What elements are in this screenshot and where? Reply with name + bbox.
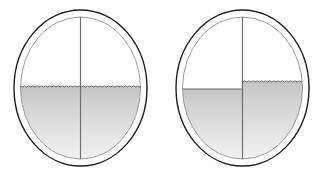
diagram-canvas [0,0,322,175]
vessels-diagram [0,0,322,175]
vessel-left-surface-line [14,86,148,87]
vessel-right-right-surface-line [243,81,310,82]
vessel-right-right-liquid-fill [242,82,311,167]
vessel-right-right-compartment [242,82,311,167]
vessel-left [14,10,148,167]
vessel-right [176,10,311,167]
